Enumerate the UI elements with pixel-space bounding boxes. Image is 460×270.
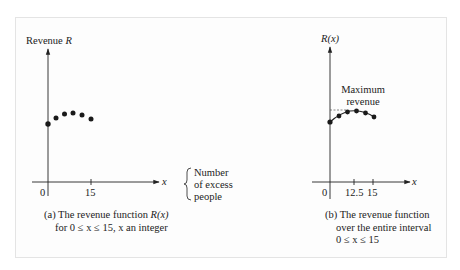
- caption-b-line1: (b) The revenue function: [325, 209, 429, 220]
- caption-a-line2: for 0 ≤ x ≤ 15, x an integer: [44, 222, 169, 235]
- brace: [184, 168, 191, 200]
- y-axis-label-text: Revenue: [26, 35, 63, 46]
- y-axis-var: R: [65, 35, 71, 46]
- panel-b-y-axis-label: R(x): [321, 33, 339, 45]
- annotation-line-2: revenue: [341, 96, 385, 108]
- side-note-line-2: of excess: [194, 179, 233, 191]
- side-note-line-1: Number: [194, 167, 233, 179]
- side-note-line-3: people: [194, 191, 233, 203]
- panel-b-caption: (b) The revenue function over the entire…: [325, 209, 431, 247]
- max-revenue-annotation: Maximum revenue: [341, 84, 385, 108]
- panel-b-x-axis-var: x: [412, 176, 417, 188]
- panel-b-tick-0: 0: [322, 187, 327, 199]
- panel-a-x-axis-var: x: [162, 176, 167, 188]
- caption-b-line3: 0 ≤ x ≤ 15: [325, 234, 431, 247]
- x-axis-description: Number of excess people: [194, 167, 233, 203]
- panel-b-axes: [312, 47, 410, 199]
- panel-a-caption: (a) The revenue function R(x) for 0 ≤ x …: [44, 209, 169, 234]
- panel-a-points: [45, 111, 93, 127]
- panel-b-tick-12-5: 12.5: [345, 187, 363, 199]
- caption-a-line1: (a) The revenue function: [44, 209, 151, 220]
- panel-b-tick-15: 15: [367, 187, 378, 199]
- panel-a-axes: [32, 49, 159, 196]
- panel-a-y-axis-label: Revenue R: [26, 35, 72, 47]
- annotation-line-1: Maximum: [341, 84, 385, 96]
- panel-a-tick-0: 0: [40, 187, 45, 199]
- caption-a-func: R(x): [151, 209, 169, 220]
- caption-b-line2: over the entire interval: [325, 222, 431, 235]
- panel-a-tick-15: 15: [85, 187, 96, 199]
